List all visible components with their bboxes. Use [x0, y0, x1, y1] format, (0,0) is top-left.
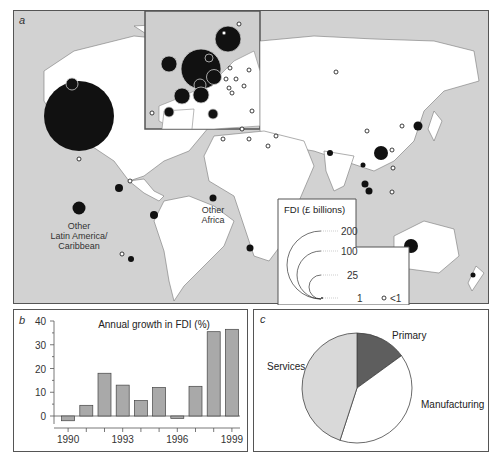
bar-1994 — [134, 401, 147, 416]
x-tick-label: 1996 — [166, 434, 189, 445]
map-graphic: Other Latin America/ Caribbean Other Afr… — [14, 11, 490, 305]
pie-label-manufacturing: Manufacturing — [421, 399, 484, 410]
bar-1993 — [116, 385, 129, 416]
y-tick-label: 10 — [35, 387, 47, 398]
pie-label-services: Services — [267, 361, 305, 372]
pie-label-primary: Primary — [392, 330, 426, 341]
small-fdi-symbol-icon — [382, 296, 386, 300]
label-other-africa-1: Other — [202, 205, 225, 215]
y-tick-label: 30 — [35, 340, 47, 351]
fdi-sector-pie-chart: c Primary Manufacturing Services — [253, 309, 489, 452]
panel-a-letter: a — [19, 14, 25, 26]
y-tick-label: 20 — [35, 364, 47, 375]
annual-growth-bar-chart: b Annual growth in FDI (%) 0102030401990… — [13, 309, 248, 452]
bar-1990 — [62, 416, 75, 421]
y-tick-label: 40 — [35, 316, 47, 327]
bar-1999 — [225, 329, 238, 416]
label-other-africa-2: Africa — [201, 215, 224, 225]
bar-1991 — [80, 405, 93, 416]
legend-level-200: 200 — [341, 226, 358, 237]
bar-chart-graphic: b Annual growth in FDI (%) 0102030401990… — [14, 310, 249, 453]
bar-1992 — [98, 373, 111, 416]
bar-1995 — [153, 388, 166, 417]
legend-level-100: 100 — [341, 246, 358, 257]
pie-chart-graphic: c Primary Manufacturing Services — [254, 310, 490, 453]
label-other-latin-america-1: Other — [68, 221, 91, 231]
x-tick-label: 1990 — [57, 434, 80, 445]
label-other-latin-america-3: Caribbean — [58, 241, 100, 251]
legend-level-1: 1 — [357, 293, 363, 304]
legend-title: FDI (£ billions) — [284, 204, 345, 215]
legend-level-25: 25 — [347, 270, 359, 281]
y-tick-label: 0 — [40, 411, 46, 422]
x-tick-label: 1993 — [112, 434, 135, 445]
panel-c-letter: c — [260, 313, 266, 325]
legend-small-label: <1 — [390, 293, 402, 304]
bar-chart-title: Annual growth in FDI (%) — [98, 319, 210, 330]
bar-1998 — [207, 332, 220, 416]
label-other-latin-america-2: Latin America/ — [50, 231, 108, 241]
x-tick-label: 1999 — [221, 434, 244, 445]
world-fdi-map: Other Latin America/ Caribbean Other Afr… — [13, 10, 489, 304]
panel-b-letter: b — [19, 314, 25, 326]
bar-1996 — [171, 416, 184, 418]
bar-1997 — [189, 386, 202, 416]
